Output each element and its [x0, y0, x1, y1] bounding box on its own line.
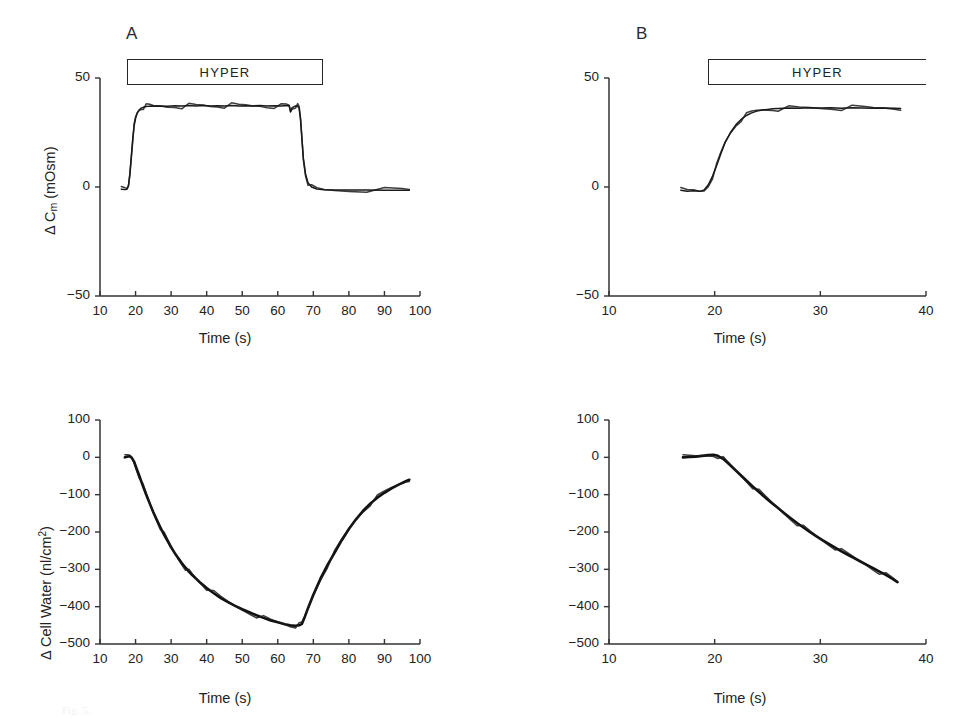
- x-tick-label: 40: [901, 651, 951, 666]
- panel-b-delta-cm: HYPER Δ Cm (mOsm) Time (s) 500−501020304…: [470, 0, 969, 360]
- panel-a-delta-cell-water: Δ Cell Water (nl/cm2) Time (s) 1000−100−…: [0, 360, 470, 719]
- y-tick-label: 0: [537, 178, 599, 193]
- x-axis-title-a-cell-water: Time (s): [170, 690, 280, 706]
- y-tick-label: 100: [537, 411, 599, 426]
- caption-fragment: Fig. 5.: [62, 704, 90, 716]
- data-trace-noise: [681, 105, 901, 191]
- y-tick-label: −50: [537, 287, 599, 302]
- y-tick-label: 100: [28, 411, 90, 426]
- x-tick-label: 100: [395, 303, 445, 318]
- x-axis-title-b-cell-water: Time (s): [685, 690, 795, 706]
- figure-root: A B HYPER Δ Cm (mOsm) Time (s) 500−50102…: [0, 0, 969, 719]
- panel-a-delta-cm: HYPER Δ Cm (mOsm) Time (s) 500−501020304…: [0, 0, 470, 360]
- x-tick-label: 20: [690, 303, 740, 318]
- x-tick-label: 10: [584, 303, 634, 318]
- y-tick-label: 50: [28, 69, 90, 84]
- y-tick-label: −100: [28, 486, 90, 501]
- y-tick-label: −300: [537, 560, 599, 575]
- panel-b-delta-cell-water: Δ Cell Water (nl/cm2) Time (s) 1000−100−…: [470, 360, 969, 719]
- data-trace: [121, 105, 409, 190]
- y-tick-label: −50: [28, 287, 90, 302]
- y-tick-label: −500: [537, 635, 599, 650]
- y-tick-label: −400: [28, 598, 90, 613]
- x-tick-label: 30: [795, 651, 845, 666]
- y-tick-label: 0: [28, 178, 90, 193]
- x-tick-label: 40: [901, 303, 951, 318]
- y-tick-label: 0: [537, 448, 599, 463]
- y-tick-label: −100: [537, 486, 599, 501]
- x-tick-label: 10: [584, 651, 634, 666]
- y-tick-label: −200: [28, 523, 90, 538]
- y-tick-label: −500: [28, 635, 90, 650]
- data-trace: [681, 108, 901, 191]
- x-tick-label: 30: [795, 303, 845, 318]
- y-tick-label: −400: [537, 598, 599, 613]
- x-axis-title-a-cm: Time (s): [170, 330, 280, 346]
- data-trace: [683, 455, 898, 582]
- y-tick-label: −300: [28, 560, 90, 575]
- y-tick-label: 0: [28, 448, 90, 463]
- y-tick-label: −200: [537, 523, 599, 538]
- x-axis-title-b-cm: Time (s): [685, 330, 795, 346]
- y-tick-label: 50: [537, 69, 599, 84]
- x-tick-label: 100: [395, 651, 445, 666]
- data-trace: [125, 456, 409, 625]
- x-tick-label: 20: [690, 651, 740, 666]
- data-trace-noise: [121, 103, 409, 193]
